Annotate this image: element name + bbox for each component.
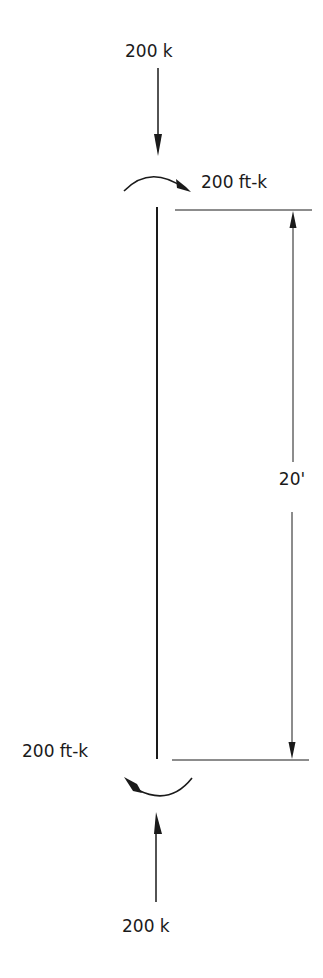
top-moment-label: 200 ft-k — [201, 172, 267, 192]
bottom-moment-label: 200 ft-k — [22, 741, 88, 761]
top-load-label: 200 k — [125, 41, 173, 61]
top-moment: 200 ft-k — [124, 172, 267, 192]
down-arrow-icon — [289, 742, 296, 759]
dimension-label: 20' — [279, 469, 305, 489]
column-diagram: 200 k 200 ft-k 20' 200 ft-k 200 k — [0, 0, 323, 978]
bottom-load-label: 200 k — [122, 916, 170, 936]
down-arrow-icon — [154, 134, 162, 156]
up-arrow-icon — [154, 812, 162, 834]
bottom-moment-arc — [138, 778, 192, 796]
clockwise-arrow-icon — [176, 179, 191, 192]
top-axial-load: 200 k — [125, 41, 173, 156]
top-moment-arc — [124, 177, 184, 191]
up-arrow-icon — [290, 211, 297, 228]
dimension-line: 20' — [279, 211, 305, 759]
bottom-axial-load: 200 k — [122, 812, 170, 936]
clockwise-arrow-icon — [124, 777, 142, 793]
bottom-moment: 200 ft-k — [22, 741, 192, 796]
